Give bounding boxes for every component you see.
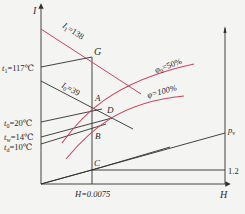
point-g-label: G [94,46,101,57]
point-b-label: B [95,131,101,141]
c-line-ext [92,147,170,170]
point-c-label: C [94,158,101,168]
svg-text:t1=117℃: t1=117℃ [2,63,34,74]
t0-isotherm [41,109,102,122]
i1-enthalpy-line [41,29,141,94]
svg-text:t0=20℃: t0=20℃ [4,118,32,129]
svg-text:pv: pv [227,125,235,136]
point-d-label: D [106,105,114,115]
y-axis-label: I [32,5,37,16]
h-value-label: H=0.0075 [74,189,110,199]
tw-isotherm [41,118,112,137]
svg-text:I1=138: I1=138 [60,20,86,43]
svg-text:φ0=50%: φ0=50% [153,56,183,76]
c-line [41,170,92,184]
x-axis-label: H [219,189,228,200]
i0-enthalpy-line [41,81,133,129]
svg-text:td=10℃: td=10℃ [4,142,32,153]
point-a-label: A [94,93,101,103]
scale-value-label: 1.2 [228,166,239,176]
psychrometric-diagram: I H I1=138 I0=39 φ0=50% φ=100% pv 1.2 H=… [0,0,245,214]
t1-isotherm [41,57,92,67]
